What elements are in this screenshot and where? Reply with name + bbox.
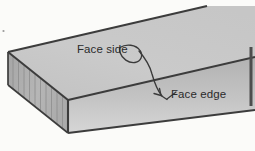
figure-canvas: Face side Face edge: [0, 0, 255, 151]
label-face-side: Face side: [77, 43, 128, 55]
right-edge-band: [250, 47, 253, 106]
dust-speck: [2, 30, 4, 32]
label-face-edge: Face edge: [171, 88, 226, 100]
board-illustration: [0, 0, 255, 151]
